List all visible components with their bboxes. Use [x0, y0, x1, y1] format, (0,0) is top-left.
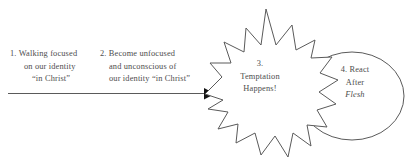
step-2-line-1: 2. Become unfocused	[100, 48, 190, 61]
step-3-line-1: 3.	[222, 58, 298, 71]
step-3-line-2: Temptation	[222, 71, 298, 84]
step-1-line-2: on our identity	[10, 61, 77, 74]
step-1-label: 1. Walking focused on our identity “in C…	[10, 48, 77, 86]
step-2-line-2: and unconscious of	[100, 61, 190, 74]
step-4-line-1: 4. React	[322, 64, 388, 77]
step-2-label: 2. Become unfocused and unconscious of o…	[100, 48, 190, 86]
diagram-container: 1. Walking focused on our identity “in C…	[0, 0, 415, 167]
step-2-line-3: our identity “in Christ”	[100, 73, 190, 86]
step-4-line-3: Flesh	[322, 89, 388, 102]
step-4-label: 4. React After Flesh	[322, 64, 388, 102]
step-3-label: 3. Temptation Happens!	[222, 58, 298, 96]
step-4-line-2: After	[322, 77, 388, 90]
step-1-line-1: 1. Walking focused	[10, 48, 77, 61]
step-3-line-3: Happens!	[222, 83, 298, 96]
step-1-line-3: “in Christ”	[10, 73, 77, 86]
